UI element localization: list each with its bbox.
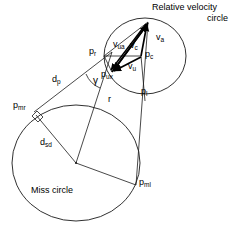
label-p-ml: pml xyxy=(139,178,151,187)
label-r: r xyxy=(108,95,111,104)
label-p-c-sub: c xyxy=(150,53,153,60)
caption-relative-velocity-circle-line2: circle xyxy=(152,14,228,23)
label-p-mr: pmr xyxy=(13,101,26,110)
label-v-u-base: v xyxy=(128,61,133,71)
label-v-a-base: v xyxy=(156,32,161,42)
label-d-sd-sub: sd xyxy=(45,141,52,148)
label-v-c-sub: c xyxy=(135,44,138,51)
line-center-to-pml xyxy=(76,163,136,185)
label-p-ux: pux xyxy=(101,70,113,79)
node-miss-center xyxy=(75,162,77,164)
label-p-r: pr xyxy=(89,47,96,56)
label-v-u-sub: u xyxy=(133,65,137,72)
line-dp-pmr-to-pr xyxy=(34,52,112,112)
line-r-to-miss-center xyxy=(76,52,112,163)
label-d-p: dp xyxy=(52,75,61,84)
label-p-mr-sub: mr xyxy=(18,104,26,111)
label-p-l: pl xyxy=(141,87,147,96)
label-v-a: va xyxy=(156,33,164,42)
label-v-c-base: v xyxy=(130,40,135,50)
diagram-canvas: Relative velocity circle Miss circle va … xyxy=(0,0,243,227)
caption-relative-velocity-circle-line1: Relative velocity xyxy=(152,3,217,12)
label-p-c: pc xyxy=(145,50,153,59)
label-v-ua-sub: ua xyxy=(118,43,125,50)
label-v-c: vc xyxy=(130,41,138,50)
label-p-ux-sub: ux xyxy=(106,73,113,80)
label-p-l-sub: l xyxy=(146,90,147,97)
label-d-p-sub: p xyxy=(57,78,61,85)
label-v-ua: vua xyxy=(113,40,125,49)
label-p-r-sub: r xyxy=(94,50,96,57)
label-v-u: vu xyxy=(128,62,136,71)
label-v-a-sub: a xyxy=(161,36,165,43)
label-gamma: γ xyxy=(93,76,98,87)
label-p-ml-sub: ml xyxy=(144,181,151,188)
caption-miss-circle: Miss circle xyxy=(31,186,73,195)
label-v-ua-base: v xyxy=(113,39,118,49)
label-d-sd: dsd xyxy=(40,138,52,147)
